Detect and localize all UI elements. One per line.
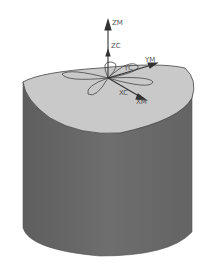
zc-arrow-icon (106, 50, 110, 56)
zm-arrow-icon (105, 20, 111, 30)
label-xc: XC (119, 89, 128, 97)
label-ym: YM (144, 56, 155, 64)
label-xm: XM (136, 98, 147, 106)
label-yc: YC (123, 64, 133, 72)
cad-viewport[interactable]: ZM ZC YM YC XC XM (0, 0, 211, 270)
label-zm: ZM (112, 19, 123, 27)
label-zc: ZC (111, 42, 121, 50)
model-canvas: ZM ZC YM YC XC XM (0, 0, 211, 270)
